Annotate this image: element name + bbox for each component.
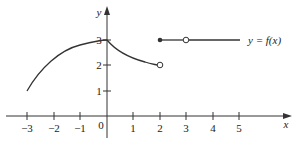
open-point-3-3 xyxy=(183,37,189,43)
filled-point-2-3 xyxy=(158,38,163,43)
function-label: y = f(x) xyxy=(247,34,281,47)
y-tick-label: 2 xyxy=(96,59,102,71)
x-tick-label: −1 xyxy=(74,122,86,134)
x-tick-label: 5 xyxy=(236,122,242,134)
x-tick-label: 3 xyxy=(183,122,189,134)
x-tick-label: 4 xyxy=(210,122,216,134)
curve-middle xyxy=(107,40,157,65)
y-tick-label: 1 xyxy=(96,85,102,97)
x-tick-label: 0 xyxy=(98,119,104,131)
x-tick-label: 1 xyxy=(130,122,136,134)
x-tick-label: −2 xyxy=(48,122,60,134)
y-axis-label: y xyxy=(96,6,102,18)
curve-left xyxy=(27,40,107,91)
function-graph: −3 −2 −1 0 1 2 3 4 5 1 2 3 x y y = f(x) xyxy=(0,0,300,146)
open-point-2-2 xyxy=(157,62,163,68)
x-tick-label: −3 xyxy=(21,122,33,134)
x-tick-label: 2 xyxy=(157,122,163,134)
x-axis-label: x xyxy=(283,118,289,130)
y-axis-arrow-icon xyxy=(104,6,110,15)
